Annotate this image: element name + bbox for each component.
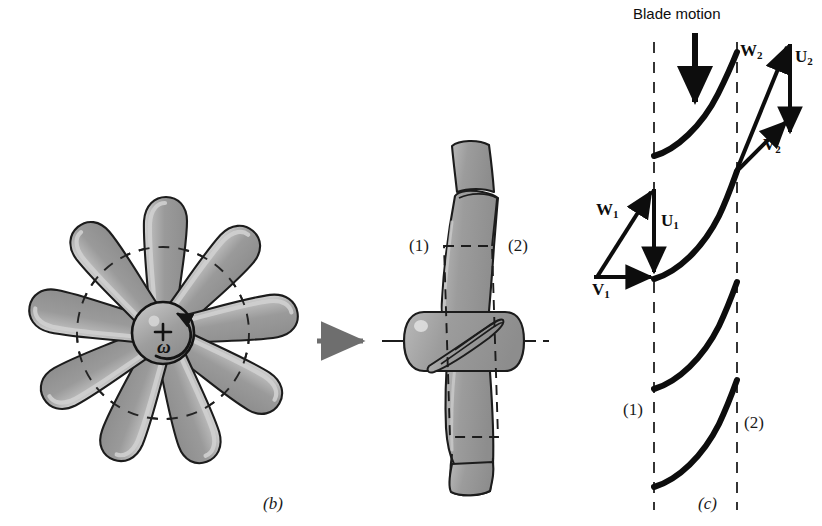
mid-station-1-label: (1) [409,236,429,256]
vector-V1-label: V1 [592,280,610,300]
panel-c-caption: (c) [698,494,717,514]
figure-root: ω (b) (1) (2) Blade motion W1 U1 V1 W2 U… [0,0,822,526]
vector-V2-label: V2 [763,135,781,155]
cascade-blade-4 [654,380,737,487]
vector-W2-label: W2 [740,41,763,61]
blade-lower-tip [450,462,494,495]
c-station-1-label: (1) [623,400,643,420]
section-hub-highlight [414,320,428,332]
vector-U2-label: U2 [795,47,813,67]
panel-b-caption: (b) [263,494,283,514]
figure-canvas [0,0,822,526]
blade-upper-tip [452,141,494,192]
mid-station-2-label: (2) [508,236,528,256]
vector-W1-label: W1 [596,200,619,220]
panel-b-fan [26,197,301,469]
omega-label: ω [157,336,171,358]
c-station-2-label: (2) [744,413,764,433]
cascade-blade-3 [654,282,737,389]
vector-U1-label: U1 [661,211,679,231]
panel-blade-section [382,141,549,495]
panel-c-cascade [594,33,790,510]
blade-motion-label: Blade motion [633,5,721,22]
hub-highlight [149,316,160,327]
